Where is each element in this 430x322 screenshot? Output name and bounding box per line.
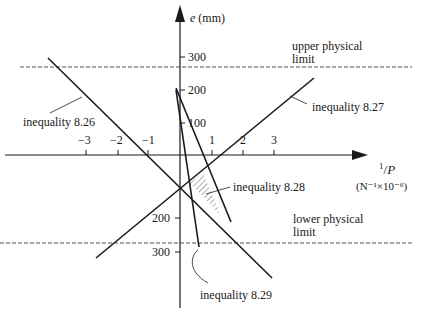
y-tick-label: 200 bbox=[152, 212, 170, 225]
x-axis-label: 1/P bbox=[379, 160, 395, 176]
inequality-826-label: inequality 8.26 bbox=[23, 116, 95, 129]
inequality-827-line bbox=[96, 78, 314, 258]
upper-limit-label-line2: limit bbox=[292, 53, 362, 66]
leader-826 bbox=[50, 97, 82, 113]
leader-829 bbox=[192, 250, 208, 283]
inequality-828-label: inequality 8.28 bbox=[233, 181, 305, 194]
y-tick-label: 300 bbox=[152, 246, 170, 259]
y-axis-variable: e bbox=[190, 11, 195, 25]
x-tick-label: 1 bbox=[209, 134, 215, 147]
y-axis-label: e (mm) bbox=[190, 12, 225, 25]
leader-827 bbox=[290, 96, 307, 104]
x-axis-label-denominator: P bbox=[387, 162, 395, 177]
y-axis-arrow-icon bbox=[175, 5, 185, 22]
diagram-canvas bbox=[0, 0, 430, 322]
lower-limit-label-line2: limit bbox=[293, 226, 363, 239]
x-axis-arrow-icon bbox=[352, 150, 368, 160]
x-tick-label: 3 bbox=[271, 134, 277, 147]
x-axis-unit: (N⁻¹×10⁻⁶) bbox=[356, 180, 407, 193]
x-tick-label: −2 bbox=[110, 134, 123, 147]
inequality-829-label: inequality 8.29 bbox=[200, 289, 272, 302]
upper-limit-label: upper physical limit bbox=[292, 40, 362, 66]
y-tick-label: 200 bbox=[188, 84, 206, 97]
feasible-region-hatch bbox=[190, 173, 221, 216]
lower-limit-label: lower physical limit bbox=[293, 213, 363, 239]
x-tick-label: 2 bbox=[240, 134, 246, 147]
inequality-827-label: inequality 8.27 bbox=[312, 101, 384, 114]
y-axis-unit: (mm) bbox=[198, 11, 225, 25]
y-tick-label: 300 bbox=[188, 51, 206, 64]
x-tick-label: −1 bbox=[142, 134, 155, 147]
x-tick-label: −3 bbox=[78, 134, 91, 147]
y-tick-label: 100 bbox=[188, 117, 206, 130]
